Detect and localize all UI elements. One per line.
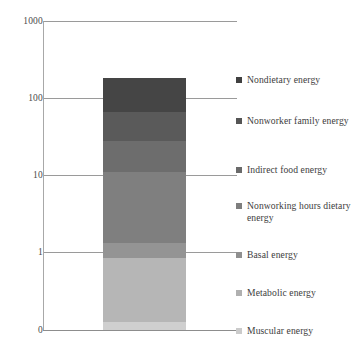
y-axis-tick-label: 100	[28, 93, 43, 103]
legend-item-label: Metabolic energy	[247, 287, 316, 299]
legend-item[interactable]: Nonworking hours dietary energy	[236, 200, 356, 223]
legend-item[interactable]: Muscular energy	[236, 325, 356, 337]
bar-segment[interactable]	[103, 141, 186, 172]
legend-swatch-icon	[236, 77, 242, 83]
legend-swatch-icon	[236, 167, 242, 173]
y-axis-spine	[43, 21, 44, 330]
legend-item[interactable]: Indirect food energy	[236, 164, 356, 176]
legend-item-label: Muscular energy	[247, 325, 313, 337]
legend-swatch-icon	[236, 118, 242, 124]
bar-segment[interactable]	[103, 258, 186, 322]
legend-item[interactable]: Metabolic energy	[236, 287, 356, 299]
legend-item-label: Nonworking hours dietary energy	[247, 200, 356, 223]
gridline	[43, 21, 237, 22]
y-axis-tick-label: 10	[33, 170, 43, 180]
bar-segment[interactable]	[103, 243, 186, 258]
y-axis-tick-label: 1000	[23, 16, 43, 26]
legend-swatch-icon	[236, 203, 242, 209]
bar-segment[interactable]	[103, 112, 186, 141]
legend-swatch-icon	[236, 290, 242, 296]
stacked-bar-chart: 10001001010 Nondietary energyNonworker f…	[0, 0, 356, 349]
gridline	[43, 330, 237, 331]
bar-segment[interactable]	[103, 78, 186, 112]
legend-item[interactable]: Nonworker family energy	[236, 115, 356, 127]
bar-segment[interactable]	[103, 322, 186, 330]
legend-item-label: Nondietary energy	[247, 74, 320, 86]
legend-item-label: Basal energy	[247, 249, 298, 261]
bar-segment[interactable]	[103, 172, 186, 243]
legend-swatch-icon	[236, 328, 242, 334]
legend-swatch-icon	[236, 252, 242, 258]
legend-item[interactable]: Basal energy	[236, 249, 356, 261]
legend-item-label: Nonworker family energy	[247, 115, 349, 127]
legend-item-label: Indirect food energy	[247, 164, 327, 176]
legend-item[interactable]: Nondietary energy	[236, 74, 356, 86]
